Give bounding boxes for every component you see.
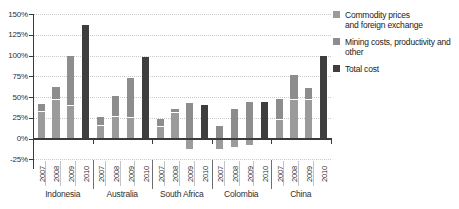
bar-segment-divider	[97, 125, 104, 126]
gridline--25	[33, 159, 331, 160]
bar-mining-Australia-2009	[127, 78, 134, 117]
year-label-Colombia-2008: 2008	[230, 161, 240, 187]
legend-label-mining: Mining costs, productivity andother	[345, 37, 459, 57]
bar-commodity-Indonesia-2008	[52, 99, 59, 139]
legend-label-line: Total cost	[345, 64, 459, 74]
bar-mining-Australia-2008	[112, 96, 119, 116]
bar-mining-South Africa-2009	[186, 103, 193, 139]
year-label-Indonesia-2009: 2009	[66, 161, 76, 187]
country-label-Australia: Australia	[93, 189, 153, 199]
bar-total-Colombia-2010	[261, 102, 268, 139]
bar-total-Indonesia-2010	[82, 25, 89, 139]
year-label-Colombia-2007: 2007	[215, 161, 225, 187]
country-group-separator	[271, 160, 272, 190]
axis-group-tick	[152, 140, 153, 145]
year-label-Australia-2007: 2007	[96, 161, 106, 187]
y-axis-label: 50%	[2, 93, 28, 102]
country-label-Colombia: Colombia	[212, 189, 272, 199]
bar-segment-divider	[38, 111, 45, 112]
bar-mining-China-2008	[290, 75, 297, 100]
legend-swatch-mining	[333, 38, 340, 45]
year-label-China-2010: 2010	[319, 161, 329, 187]
legend-label-line: Commodity prices	[345, 10, 459, 20]
gridline-100	[33, 56, 331, 57]
bar-commodity-China-2007	[276, 119, 283, 138]
year-label-Colombia-2009: 2009	[245, 161, 255, 187]
gridline-75	[33, 76, 331, 77]
bar-mining-Colombia-2009	[246, 102, 253, 139]
bar-mining-China-2007	[276, 99, 283, 119]
legend-label-line: other	[345, 47, 459, 57]
bar-commodity-Australia-2009	[127, 117, 134, 139]
bar-segment-divider	[127, 117, 134, 118]
zero-axis-line	[33, 138, 332, 140]
legend-item-mining: Mining costs, productivity andother	[333, 37, 459, 57]
bar-mining-Indonesia-2009	[67, 56, 74, 106]
bar-mining-China-2009	[305, 88, 312, 99]
year-label-China-2008: 2008	[289, 161, 299, 187]
year-label-Australia-2008: 2008	[111, 161, 121, 187]
bar-commodity-Colombia-2007	[216, 139, 223, 150]
y-axis-label: 150%	[2, 10, 28, 19]
legend-label-commodity: Commodity pricesand foreign exchange	[345, 10, 459, 30]
axis-group-tick	[271, 140, 272, 145]
country-label-China: China	[271, 189, 331, 199]
y-axis-label: -25%	[2, 155, 28, 164]
bar-mining-Colombia-2007	[216, 126, 223, 138]
y-axis-label: 125%	[2, 30, 28, 39]
gridline-50	[33, 97, 331, 98]
axis-group-tick	[331, 140, 332, 145]
country-group-separator	[152, 160, 153, 190]
bar-commodity-Indonesia-2007	[38, 111, 45, 138]
bar-commodity-South Africa-2008	[171, 112, 178, 139]
year-label-South Africa-2009: 2009	[185, 161, 195, 187]
gridline-125	[33, 35, 331, 36]
y-axis-label: 100%	[2, 51, 28, 60]
year-label-China-2007: 2007	[275, 161, 285, 187]
bar-mining-South Africa-2007	[157, 119, 164, 126]
year-label-China-2009: 2009	[304, 161, 314, 187]
year-label-South Africa-2010: 2010	[200, 161, 210, 187]
bar-commodity-China-2008	[290, 99, 297, 138]
year-label-South Africa-2008: 2008	[170, 161, 180, 187]
legend: Commodity pricesand foreign exchangeMini…	[333, 10, 459, 74]
bar-mining-Colombia-2008	[231, 109, 238, 138]
bar-commodity-Australia-2007	[97, 125, 104, 138]
gridline-25	[33, 118, 331, 119]
year-label-Colombia-2010: 2010	[260, 161, 270, 187]
year-label-South Africa-2007: 2007	[156, 161, 166, 187]
bar-total-China-2010	[320, 56, 327, 139]
bar-segment-divider	[171, 112, 178, 113]
year-label-Indonesia-2008: 2008	[51, 161, 61, 187]
axis-group-tick	[93, 140, 94, 145]
bar-commodity-South Africa-2009	[186, 139, 193, 150]
bar-mining-Australia-2007	[97, 117, 104, 125]
y-axis-label: 25%	[2, 113, 28, 122]
country-label-Indonesia: Indonesia	[33, 189, 93, 199]
bar-commodity-China-2009	[305, 99, 312, 139]
bar-segment-divider	[290, 99, 297, 100]
bar-mining-Indonesia-2007	[38, 104, 45, 111]
legend-item-total: Total cost	[333, 64, 459, 74]
bar-segment-divider	[157, 126, 164, 127]
legend-label-line: Mining costs, productivity and	[345, 37, 459, 47]
bar-segment-divider	[52, 99, 59, 100]
axis-group-tick	[212, 140, 213, 145]
year-label-Australia-2009: 2009	[126, 161, 136, 187]
y-axis-line	[33, 14, 34, 169]
legend-swatch-commodity	[333, 11, 340, 18]
bar-total-Australia-2010	[142, 57, 149, 138]
bar-commodity-Indonesia-2009	[67, 105, 74, 138]
legend-label-line: and foreign exchange	[345, 20, 459, 30]
bar-mining-Indonesia-2008	[52, 87, 59, 99]
country-group-separator	[212, 160, 213, 190]
bar-segment-divider	[112, 116, 119, 117]
year-label-Indonesia-2010: 2010	[81, 161, 91, 187]
year-label-Australia-2010: 2010	[141, 161, 151, 187]
country-label-South Africa: South Africa	[152, 189, 212, 199]
bar-total-South Africa-2010	[201, 105, 208, 138]
bar-commodity-Australia-2008	[112, 116, 119, 138]
year-label-Indonesia-2007: 2007	[37, 161, 47, 187]
bar-segment-divider	[276, 119, 283, 120]
y-axis-label: 75%	[2, 72, 28, 81]
